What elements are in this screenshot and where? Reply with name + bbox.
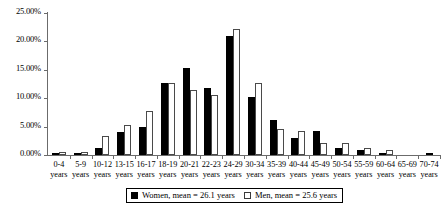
bar-group xyxy=(396,13,418,155)
bar-group xyxy=(113,13,135,155)
x-axis-category-label: 18-19years xyxy=(157,160,179,180)
x-axis-category-label: 24-29years xyxy=(222,160,244,180)
x-axis-category-label: 22-23years xyxy=(200,160,222,180)
bar-men xyxy=(168,83,175,155)
x-axis-tick-mark xyxy=(244,155,245,159)
bar-group-bars xyxy=(200,13,222,155)
y-axis-tick-mark xyxy=(44,155,48,156)
plot-area xyxy=(48,13,440,155)
bar-group-bars xyxy=(92,13,114,155)
x-axis-category-label: 60-64years xyxy=(375,160,397,180)
legend-swatch-women-icon xyxy=(131,192,138,199)
bar-women xyxy=(204,88,211,155)
x-axis-category-label: 10-12years xyxy=(92,160,114,180)
bar-women xyxy=(291,138,298,155)
x-axis-category-label: 50-54years xyxy=(331,160,353,180)
bar-group-bars xyxy=(113,13,135,155)
x-axis-tick-mark xyxy=(113,155,114,159)
bar-women xyxy=(117,132,124,155)
bar-men xyxy=(81,152,88,155)
bar-group-bars xyxy=(135,13,157,155)
bar-men xyxy=(298,131,305,155)
x-axis-category-label: 20-21years xyxy=(179,160,201,180)
y-axis-tick: 15.00% xyxy=(0,70,48,71)
x-axis-tick-mark xyxy=(309,155,310,159)
x-axis-tick-mark xyxy=(200,155,201,159)
bar-women xyxy=(226,36,233,155)
bar-group xyxy=(157,13,179,155)
x-axis-category-label: 65-69years xyxy=(396,160,418,180)
bar-group xyxy=(418,13,440,155)
x-axis-tick-mark xyxy=(440,155,441,159)
bar-women xyxy=(139,127,146,155)
bar-group-bars xyxy=(396,13,418,155)
bar-group xyxy=(244,13,266,155)
x-axis-category-label: 70-74years xyxy=(418,160,440,180)
bar-group xyxy=(48,13,70,155)
bar-men xyxy=(146,111,153,155)
bar-group-bars xyxy=(309,13,331,155)
y-axis-tick: 25.00% xyxy=(0,13,48,14)
bar-group xyxy=(353,13,375,155)
y-axis-tick-label: 0.00% xyxy=(20,149,41,158)
legend-item: Men, mean = 25.6 years xyxy=(244,190,337,200)
bar-women xyxy=(95,148,102,155)
x-axis-tick-mark xyxy=(288,155,289,159)
bar-women xyxy=(426,153,433,155)
bar-group xyxy=(179,13,201,155)
x-axis-tick-mark xyxy=(353,155,354,159)
legend-item: Women, mean = 26.1 years xyxy=(131,190,235,200)
x-axis-tick-mark xyxy=(157,155,158,159)
bar-men xyxy=(320,143,327,155)
x-axis-tick-mark xyxy=(222,155,223,159)
bar-group-bars xyxy=(157,13,179,155)
x-axis-tick-mark xyxy=(179,155,180,159)
x-axis-category-label: 13-15years xyxy=(113,160,135,180)
y-axis-tick-label: 25.00% xyxy=(16,7,41,16)
bar-group xyxy=(70,13,92,155)
bar-women xyxy=(183,68,190,155)
x-axis-tick-mark xyxy=(135,155,136,159)
bar-women xyxy=(74,153,81,155)
legend-swatch-men-icon xyxy=(244,192,251,199)
chart-legend: Women, mean = 26.1 yearsMen, mean = 25.6… xyxy=(126,188,343,203)
bar-group-bars xyxy=(70,13,92,155)
bar-women xyxy=(161,83,168,155)
bar-group xyxy=(375,13,397,155)
bar-men xyxy=(342,143,349,155)
bar-men xyxy=(255,83,262,155)
y-axis-tick: 5.00% xyxy=(0,127,48,128)
x-axis-tick-mark xyxy=(92,155,93,159)
bar-women xyxy=(313,131,320,155)
bar-group xyxy=(222,13,244,155)
x-axis-category-label: 40-44years xyxy=(288,160,310,180)
bar-women xyxy=(357,150,364,155)
bar-group-bars xyxy=(48,13,70,155)
x-axis-category-label: 45-49years xyxy=(309,160,331,180)
bar-men xyxy=(124,125,131,155)
y-axis-tick: 10.00% xyxy=(0,98,48,99)
bar-men xyxy=(233,29,240,155)
x-axis-tick-mark xyxy=(418,155,419,159)
y-axis-tick-label: 15.00% xyxy=(16,64,41,73)
y-axis-tick: 20.00% xyxy=(0,41,48,42)
x-axis-tick-mark xyxy=(375,155,376,159)
x-axis-category-label: 16-17years xyxy=(135,160,157,180)
bar-men xyxy=(277,129,284,155)
bar-women xyxy=(270,120,277,155)
bar-group-bars xyxy=(244,13,266,155)
bar-women xyxy=(52,153,59,155)
x-axis-tick-mark xyxy=(331,155,332,159)
bar-group xyxy=(135,13,157,155)
bar-men xyxy=(211,95,218,155)
y-axis-tick-label: 10.00% xyxy=(16,92,41,101)
bar-women xyxy=(335,148,342,155)
bar-group xyxy=(309,13,331,155)
bar-group-bars xyxy=(331,13,353,155)
bar-group-bars xyxy=(288,13,310,155)
bar-women xyxy=(379,153,386,155)
bar-men xyxy=(386,150,393,155)
bar-group xyxy=(288,13,310,155)
legend-item-label: Men, mean = 25.6 years xyxy=(255,190,337,200)
bar-group-bars xyxy=(418,13,440,155)
